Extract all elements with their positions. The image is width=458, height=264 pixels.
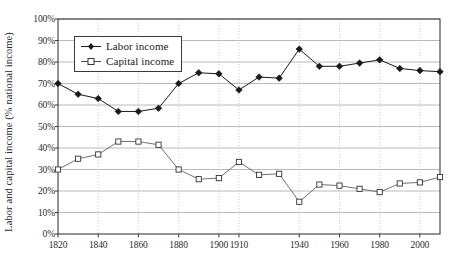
series-capital-income	[55, 139, 442, 204]
legend-item-labor-income[interactable]: Labor income	[80, 39, 174, 53]
chart-figure: Labor and capital income (% national inc…	[0, 0, 458, 264]
plot-area	[0, 0, 458, 264]
legend-item-capital-income[interactable]: Capital income	[80, 54, 174, 68]
open-square-icon	[80, 56, 102, 67]
legend-label-capital-income: Capital income	[106, 55, 174, 67]
legend-label-labor-income: Labor income	[106, 40, 169, 52]
chart-legend: Labor income Capital income	[74, 36, 182, 72]
filled-diamond-icon	[80, 41, 102, 52]
